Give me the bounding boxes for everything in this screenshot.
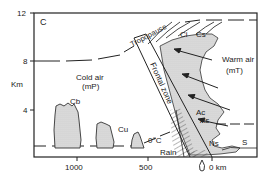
tropopause-warm-line xyxy=(185,20,257,22)
cloud-label-cs: Cs xyxy=(196,30,206,39)
y-tick-12: 12 xyxy=(17,9,26,18)
warm-front-cross-section: C 12 8 4 Km 1000 500 0 km Cold air (mP) … xyxy=(0,0,272,183)
x-tick-1000: 1000 xyxy=(65,163,83,172)
cumulus-cloud-1 xyxy=(96,122,114,148)
cloud-label-s: S xyxy=(242,138,247,147)
cloud-label-ci: Ci xyxy=(180,30,188,39)
tropopause-cold-line xyxy=(34,46,134,61)
raindrop-icon xyxy=(199,160,204,171)
warm-air-label: Warm air xyxy=(222,55,254,64)
cloud-label-ns: Ns xyxy=(209,139,219,148)
cloud-label-cu: Cu xyxy=(118,125,128,134)
warm-air-mass-label: (mT) xyxy=(226,66,243,75)
freezing-level-label: 0°C xyxy=(148,136,162,145)
cloud-label-cb: Cb xyxy=(70,97,81,106)
y-tick-4: 4 xyxy=(23,106,28,115)
cold-air-mass-label: (mP) xyxy=(82,82,100,91)
cloud-label-as: As xyxy=(200,116,209,125)
cold-air-label: Cold air xyxy=(76,73,104,82)
x-axis-ticks xyxy=(77,157,212,161)
cumulonimbus-cloud xyxy=(54,103,81,148)
y-tick-8: 8 xyxy=(23,57,28,66)
cumulus-cloud-2 xyxy=(131,132,144,148)
x-tick-0km: 0 km xyxy=(209,163,227,172)
x-tick-500: 500 xyxy=(139,163,153,172)
y-axis-label: Km xyxy=(11,80,23,89)
rain-label: Rain xyxy=(160,148,176,157)
panel-label: C xyxy=(40,17,47,27)
